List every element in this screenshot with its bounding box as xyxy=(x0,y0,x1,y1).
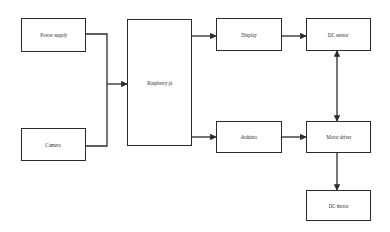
node-dc-sensor: DC sensor xyxy=(306,18,371,51)
node-label: Power supply xyxy=(40,32,67,38)
node-label: Raspberry pi xyxy=(147,80,172,86)
node-label: Camera xyxy=(46,142,61,148)
node-label: Display xyxy=(241,32,256,38)
node-raspberry-pi: Raspberry pi xyxy=(127,19,192,146)
node-camera: Camera xyxy=(21,128,86,161)
edge-power-supply xyxy=(86,34,107,84)
node-display: Display xyxy=(216,18,282,51)
node-label: DC motor xyxy=(329,203,349,209)
node-arduino: Arduino xyxy=(216,121,282,153)
node-motor-driver: Motor driver xyxy=(306,121,371,153)
node-power-supply: Power supply xyxy=(21,18,86,52)
node-label: DC sensor xyxy=(328,32,349,38)
node-dc-motor: DC motor xyxy=(306,190,371,221)
node-label: Motor driver xyxy=(326,134,351,140)
node-label: Arduino xyxy=(241,134,257,140)
edge-camera xyxy=(86,84,107,146)
